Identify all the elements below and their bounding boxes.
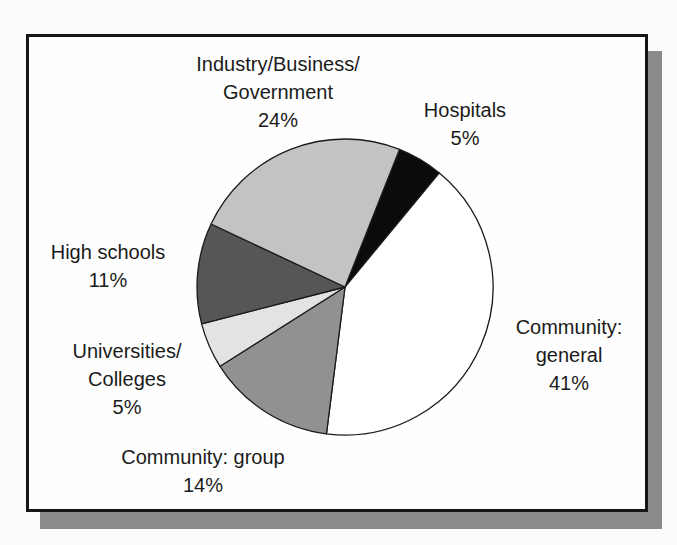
label-community-group: Community: group 14% [83,443,323,499]
label-value: 5% [385,124,545,152]
label-value: 24% [148,106,408,134]
figure-canvas: Industry/Business/ Government 24% Hospit… [0,0,677,545]
label-line: general [489,341,649,369]
label-universities-colleges: Universities/ Colleges 5% [47,337,207,421]
label-value: 41% [489,369,649,397]
label-community-general: Community: general 41% [489,313,649,397]
label-industry-business-government: Industry/Business/ Government 24% [148,50,408,134]
label-line: Universities/ [47,337,207,365]
label-line: Hospitals [385,96,545,124]
label-value: 5% [47,393,207,421]
label-line: High schools [28,238,188,266]
label-high-schools: High schools 11% [28,238,188,294]
label-value: 14% [83,471,323,499]
label-hospitals: Hospitals 5% [385,96,545,152]
label-line: Government [148,78,408,106]
label-line: Colleges [47,365,207,393]
pie-chart-svg [195,137,495,437]
label-line: Community: group [83,443,323,471]
label-line: Community: [489,313,649,341]
label-line: Industry/Business/ [148,50,408,78]
label-value: 11% [28,266,188,294]
